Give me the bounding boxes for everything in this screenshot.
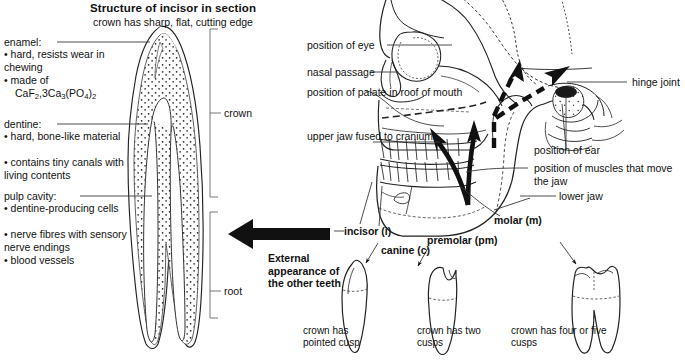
label-enamel-heading: enamel: [4,36,41,49]
label-pulp-bullet-3: • blood vessels [4,254,124,267]
bracket-label-root: root [224,285,242,298]
label-dentine-bullet-2: • contains tiny canals with living conte… [4,156,134,181]
label-dentine-heading: dentine: [4,118,41,131]
callout-canine: canine (c) [381,244,430,257]
caption-canine: crown has pointed cusp [303,325,383,350]
arrow-to-canine [366,243,378,263]
leader-premolar [406,186,412,214]
bracket-label-crown: crown [224,107,252,120]
dentine-bullet-1-text: hard, bone-like material [11,130,121,142]
label-upper-jaw: upper jaw fused to cranium [307,130,433,143]
label-nasal-passage: nasal passage [307,66,375,79]
incisor-section-drawing [128,26,203,348]
bracket-root [210,212,221,318]
caption-molar: crown has four or five cusps [511,325,611,350]
leader-position-of-muscles [466,168,528,172]
label-position-of-muscles: position of muscles that move the jaw [534,162,685,187]
enamel-bullet-1-text: hard, resists wear in chewing [4,48,105,73]
label-pulp-bullet-1: • dentine-producing cells [4,202,132,215]
callout-incisor: incisor (i) [344,225,391,238]
leader-canine [379,186,382,226]
label-position-of-ear: position of ear [534,144,600,157]
figure-title: Structure of incisor in section [88,2,258,14]
label-position-of-eye: position of eye [307,39,375,52]
figure-subtitle: crown has sharp, flat, cutting edge [78,16,268,28]
callout-premolar: premolar (pm) [427,234,498,247]
pulp-bullet-2-text: nerve fibres with sensory nerve endings [4,228,127,253]
diagram-page: Structure of incisor in section crown ha… [0,0,685,362]
bracket-crown [210,29,221,197]
pulp-bullet-1-text: dentine-producing cells [11,202,119,214]
external-appearance-heading: External appearance of the other teeth [268,252,354,290]
label-lower-jaw: lower jaw [559,190,603,203]
dentine-bullet-2-text: contains tiny canals with living content… [4,156,124,181]
label-enamel-bullet-2: • made of CaF2,3Ca3(PO4)2 [4,74,134,103]
label-position-of-palate: position of palate in roof of mouth [307,86,462,99]
label-pulp-heading: pulp cavity: [4,190,57,203]
label-hinge-joint: hinge joint [632,76,680,89]
pulp-bullet-3-text: blood vessels [11,254,75,266]
leader-incisor [360,182,372,224]
label-pulp-bullet-2: • nerve fibres with sensory nerve ending… [4,228,138,253]
label-enamel-bullet-1: • hard, resists wear in chewing [4,48,124,73]
arrow-to-molar [560,242,576,264]
caption-premolar: crown has two cusps [417,325,497,350]
leader-molar [460,186,500,216]
big-left-arrow [228,219,330,249]
leader-muscles-b [494,198,530,210]
enamel-formula: CaF2,3Ca3(PO4)2 [4,87,96,103]
label-dentine-bullet-1: • hard, bone-like material [4,130,129,143]
callout-molar: molar (m) [494,214,542,227]
